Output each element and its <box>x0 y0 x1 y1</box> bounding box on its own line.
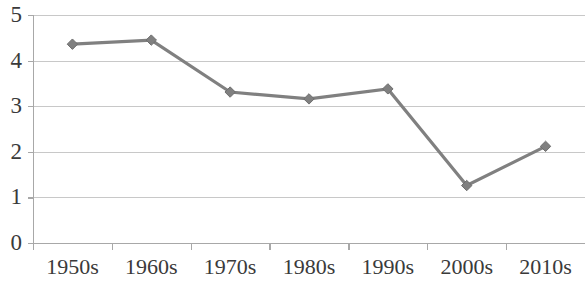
x-axis-label: 1990s <box>348 256 427 278</box>
x-axis-label: 2010s <box>506 256 585 278</box>
y-axis-label: 0 <box>0 231 22 254</box>
x-axis-label: 1970s <box>191 256 270 278</box>
y-axis-label: 4 <box>0 49 22 72</box>
x-axis-label: 1960s <box>112 256 191 278</box>
chart-plot-area <box>0 0 585 286</box>
series-line <box>72 40 545 185</box>
axis-lines <box>33 15 585 249</box>
data-point-marker <box>304 94 314 104</box>
line-chart: 543210 1950s1960s1970s1980s1990s2000s201… <box>0 0 585 286</box>
data-point-marker <box>67 39 77 49</box>
y-axis-label: 5 <box>0 3 22 26</box>
series-markers <box>67 35 551 191</box>
y-axis-label: 1 <box>0 185 22 208</box>
x-axis-label: 1950s <box>33 256 112 278</box>
x-axis-label: 2000s <box>427 256 506 278</box>
gridlines <box>33 16 585 244</box>
data-point-marker <box>540 141 550 151</box>
y-axis-label: 2 <box>0 140 22 163</box>
y-axis-label: 3 <box>0 94 22 117</box>
x-axis-label: 1980s <box>270 256 349 278</box>
y-axis-ticks <box>28 16 33 244</box>
